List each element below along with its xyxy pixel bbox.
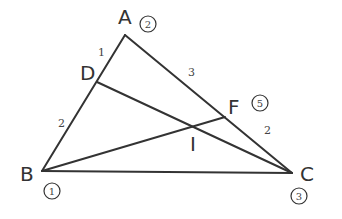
label-d: D bbox=[80, 61, 95, 85]
triangle-diagram: A 2 D F 5 I B 1 C 3 1 2 3 2 bbox=[0, 0, 342, 219]
weight-f: 5 bbox=[257, 98, 263, 109]
label-f: F bbox=[228, 95, 240, 119]
label-b: B bbox=[20, 162, 34, 186]
length-ad: 1 bbox=[98, 46, 105, 59]
weight-c: 3 bbox=[296, 191, 302, 202]
label-i: I bbox=[190, 132, 196, 156]
length-af: 3 bbox=[188, 66, 195, 79]
weight-b: 1 bbox=[49, 186, 55, 197]
label-c: C bbox=[300, 162, 314, 186]
length-db: 2 bbox=[58, 117, 65, 130]
weight-a: 2 bbox=[145, 19, 151, 30]
label-a: A bbox=[118, 5, 132, 29]
side-ac bbox=[125, 35, 292, 173]
side-bc bbox=[42, 171, 292, 173]
length-fc: 2 bbox=[264, 124, 271, 137]
